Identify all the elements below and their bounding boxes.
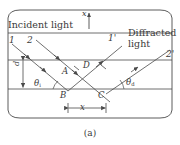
point-label-A: A — [62, 67, 68, 76]
arc-theta-d — [120, 80, 124, 89]
point-label-D: D — [83, 61, 90, 70]
x-axis-label: x — [82, 10, 87, 18]
path-difference-dimension-x — [68, 103, 106, 113]
ray-label-1-prime: 1' — [108, 34, 116, 43]
tick-DC — [101, 65, 106, 69]
diffracted-ray-2 — [106, 50, 170, 94]
point-label-B: B — [60, 91, 66, 100]
path-difference-label-x: x — [80, 103, 85, 112]
incident-ray-arrowheads — [24, 54, 78, 75]
theta-d-subscript: d — [131, 81, 134, 87]
diffracted-rays — [68, 46, 170, 94]
perpendicular-ticks — [74, 65, 106, 70]
diffracted-light-label-2: light — [128, 39, 150, 49]
tick-AD — [74, 66, 79, 70]
ray-label-2: 2 — [27, 36, 33, 45]
ray-label-1: 1 — [9, 36, 15, 45]
diffracted-light-label: Diffracted — [128, 28, 176, 38]
diffracted-ray-1 — [68, 46, 122, 91]
angle-label-theta-d: θd — [126, 78, 135, 87]
theta-i-subscript: i — [39, 82, 41, 88]
angle-label-theta-i: θi — [34, 79, 41, 88]
incident-light-label: Incident light — [8, 20, 73, 30]
ray-label-2-prime: 2' — [166, 50, 174, 59]
spacing-label-d: d — [13, 61, 21, 66]
bragg-diffraction-figure: Incident light Diffracted light x 1 2 1'… — [0, 0, 180, 145]
figure-caption: (a) — [0, 129, 180, 138]
point-label-C: C — [98, 91, 105, 100]
